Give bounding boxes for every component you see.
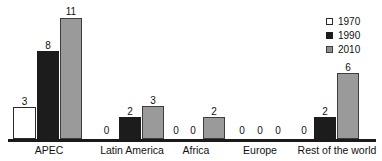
value-label-1990-europe: 0 xyxy=(252,125,268,136)
value-label-1970-latin-america: 0 xyxy=(95,125,118,136)
value-label-1990-apec: 8 xyxy=(37,40,59,51)
filled-black-square-swatch-icon xyxy=(326,32,333,39)
bar-2010-africa xyxy=(203,117,225,139)
category-axis-line xyxy=(8,139,376,142)
legend-item-1990: 1990 xyxy=(326,30,382,41)
legend-label-1990: 1990 xyxy=(338,30,360,41)
bar-2010-apec xyxy=(60,18,82,139)
category-label-rest-of-the-world: Rest of the world xyxy=(292,143,382,157)
value-label-1990-rest-of-the-world: 2 xyxy=(314,106,336,117)
open-square-swatch-icon xyxy=(326,18,333,25)
category-label-latin-america: Latin America xyxy=(90,143,174,157)
bar-1970-apec xyxy=(13,107,36,139)
value-label-2010-europe: 0 xyxy=(270,125,286,136)
category-label-africa: Africa xyxy=(166,143,226,157)
legend: 1970 1990 2010 xyxy=(326,16,382,58)
value-label-2010-latin-america: 3 xyxy=(142,95,164,106)
bar-chart: 3 8 11 APEC 0 2 3 Latin America 0 0 2 Af… xyxy=(0,0,382,161)
value-label-2010-rest-of-the-world: 6 xyxy=(337,62,359,73)
value-label-1970-europe: 0 xyxy=(234,125,250,136)
value-label-2010-apec: 11 xyxy=(60,6,82,17)
value-label-1970-apec: 3 xyxy=(13,96,36,107)
value-label-1990-latin-america: 2 xyxy=(119,106,141,117)
legend-item-1970: 1970 xyxy=(326,16,382,27)
bar-1990-latin-america xyxy=(119,117,141,139)
value-label-2010-africa: 2 xyxy=(203,106,225,117)
bar-1990-rest-of-the-world xyxy=(314,117,336,139)
value-label-1970-africa: 0 xyxy=(168,125,184,136)
value-label-1990-africa: 0 xyxy=(185,125,201,136)
legend-item-2010: 2010 xyxy=(326,44,382,55)
legend-label-1970: 1970 xyxy=(338,16,360,27)
bar-2010-latin-america xyxy=(142,106,164,139)
bar-1990-apec xyxy=(37,51,59,139)
category-label-apec: APEC xyxy=(9,143,89,157)
plot-area: 3 8 11 APEC 0 2 3 Latin America 0 0 2 Af… xyxy=(0,0,382,161)
filled-gray-square-swatch-icon xyxy=(326,46,333,53)
bar-2010-rest-of-the-world xyxy=(337,73,359,139)
category-label-europe: Europe xyxy=(228,143,292,157)
legend-label-2010: 2010 xyxy=(338,44,360,55)
value-label-1970-rest-of-the-world: 0 xyxy=(296,125,312,136)
